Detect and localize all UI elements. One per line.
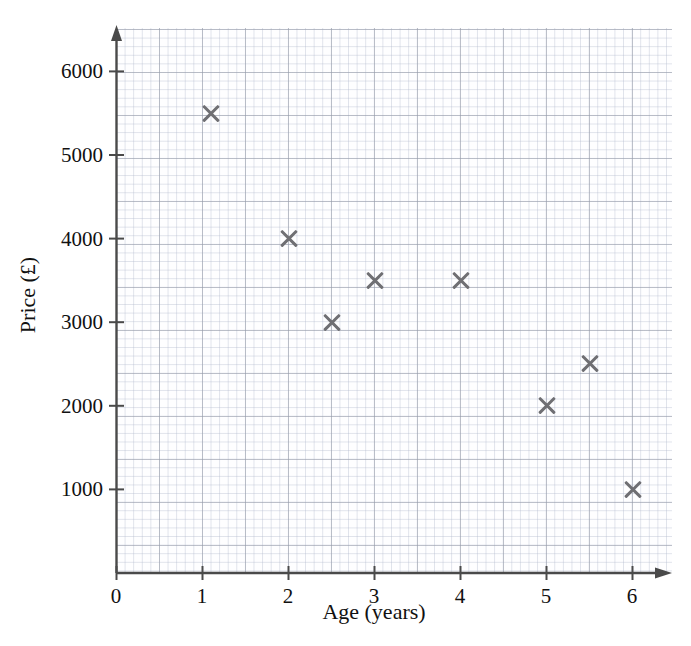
y-tick-label-5000: 5000 bbox=[61, 145, 103, 166]
x-tick-label-0: 0 bbox=[111, 586, 122, 607]
data-point-marker bbox=[579, 353, 601, 375]
x-tick-label-1: 1 bbox=[197, 586, 208, 607]
y-tick-label-3000: 3000 bbox=[61, 312, 103, 333]
data-point-marker bbox=[536, 395, 558, 417]
y-tick-label-1000: 1000 bbox=[61, 479, 103, 500]
scatter-plot-figure: 0 1 2 3 4 5 6 1000 2000 3000 4000 5000 6… bbox=[0, 0, 691, 646]
y-tick-label-6000: 6000 bbox=[61, 61, 103, 82]
y-axis-title: Price (£) bbox=[15, 257, 41, 333]
data-point-marker bbox=[321, 311, 343, 333]
data-point-marker bbox=[364, 269, 386, 291]
x-tick-label-5: 5 bbox=[541, 586, 552, 607]
data-point-marker bbox=[622, 478, 644, 500]
x-axis-title: Age (years) bbox=[322, 599, 425, 625]
data-point-marker bbox=[278, 228, 300, 250]
data-point-marker bbox=[450, 269, 472, 291]
x-tick-label-2: 2 bbox=[283, 586, 294, 607]
y-tick-label-2000: 2000 bbox=[61, 396, 103, 417]
x-tick-label-6: 6 bbox=[627, 586, 638, 607]
y-tick-label-4000: 4000 bbox=[61, 229, 103, 250]
x-tick-label-4: 4 bbox=[455, 586, 466, 607]
data-point-marker bbox=[200, 102, 222, 124]
